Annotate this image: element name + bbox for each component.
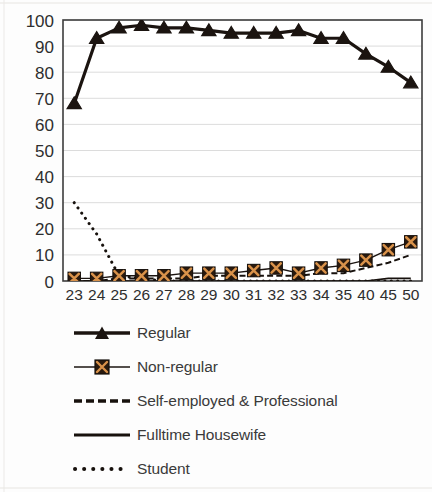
line-triangle-marker-icon	[73, 323, 131, 343]
x-tick-label: 32	[268, 286, 285, 303]
legend-label-regular: Regular	[137, 324, 191, 342]
legend-label-non-regular: Non-regular	[137, 358, 218, 376]
x-tick-label: 23	[66, 286, 83, 303]
legend-item-self-employed: Self-employed & Professional	[0, 384, 432, 418]
legend-key-non-regular	[73, 357, 131, 377]
legend-item-non-regular: Non-regular	[0, 350, 432, 384]
legend-item-student: Student	[0, 452, 432, 486]
x-tick-label: 31	[245, 286, 262, 303]
chart-legend: Regular Non-regular Self-employed & Prof…	[0, 316, 432, 492]
x-tick-label: 34	[312, 286, 330, 303]
legend-key-self-employed	[73, 391, 131, 411]
x-tick-label: 28	[178, 286, 195, 303]
dashed-line-icon	[73, 391, 131, 411]
legend-label-student: Student	[137, 460, 190, 478]
legend-key-student	[73, 459, 131, 479]
x-tick-label: 27	[155, 286, 172, 303]
solid-line-icon	[73, 425, 131, 445]
y-tick-label: 90	[35, 38, 54, 57]
x-tick-label: 29	[200, 286, 217, 303]
x-tick-label: 26	[133, 286, 150, 303]
legend-item-regular: Regular	[0, 316, 432, 350]
line-x-square-marker-icon	[73, 357, 131, 377]
legend-key-regular	[73, 323, 131, 343]
y-tick-label: 20	[35, 220, 54, 239]
x-tick-label: 33	[290, 286, 307, 303]
x-tick-label: 35	[335, 286, 352, 303]
dotted-line-icon	[73, 459, 131, 479]
legend-label-fulltime-housewife: Fulltime Housewife	[137, 426, 266, 444]
y-tick-label: 100	[26, 12, 54, 31]
x-tick-label: 45	[380, 286, 397, 303]
x-tick-label: 50	[402, 286, 420, 303]
x-axis-tick-labels: 23242526272829303132333435404550	[66, 286, 420, 303]
x-tick-label: 25	[110, 286, 127, 303]
y-tick-label: 10	[35, 246, 54, 265]
line-chart: 0102030405060708090100 23242526272829303…	[0, 0, 432, 310]
y-tick-label: 0	[45, 273, 54, 292]
y-axis-tick-labels: 0102030405060708090100	[26, 12, 54, 292]
y-tick-label: 60	[35, 116, 54, 135]
chart-plot-svg: 0102030405060708090100 23242526272829303…	[0, 0, 432, 310]
y-tick-label: 40	[35, 168, 54, 187]
y-tick-label: 80	[35, 64, 54, 83]
chart-screenshot: 0102030405060708090100 23242526272829303…	[0, 0, 432, 492]
x-tick-label: 24	[88, 286, 106, 303]
legend-label-self-employed: Self-employed & Professional	[137, 392, 338, 410]
x-tick-label: 40	[357, 286, 375, 303]
y-tick-label: 50	[35, 142, 54, 161]
y-tick-label: 70	[35, 90, 54, 109]
legend-item-fulltime-housewife: Fulltime Housewife	[0, 418, 432, 452]
y-tick-label: 30	[35, 194, 54, 213]
x-tick-label: 30	[223, 286, 241, 303]
legend-key-fulltime-housewife	[73, 425, 131, 445]
